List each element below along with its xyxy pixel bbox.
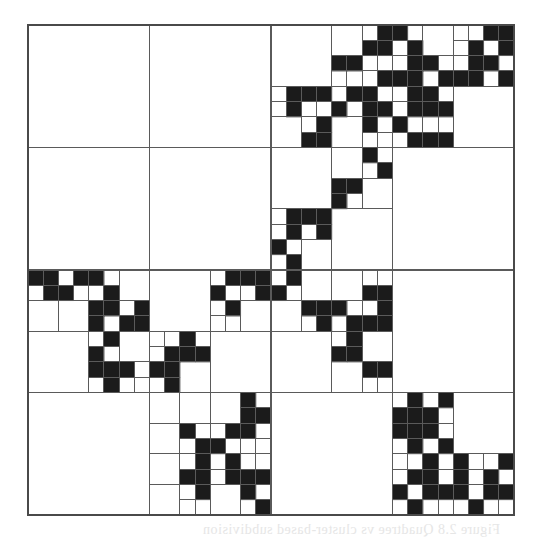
quadtree-node [347,71,362,86]
quadtree-node [256,423,271,438]
quadtree-node [241,500,256,515]
quadtree-node [210,469,225,484]
quadtree-figure [28,25,514,515]
quadtree-node [362,331,392,362]
black-cell [377,25,393,41]
black-cell [377,71,393,87]
black-cell [286,255,302,271]
quadtree-node [393,393,408,408]
quadtree-node [317,102,332,117]
quadtree-node [74,285,89,300]
quadtree-node [362,163,377,178]
quadtree-node [165,331,180,346]
quadtree-node [150,393,180,424]
bleed-through-caption: Figure 2.8 Quadtree vs cluster-based sub… [60,522,500,538]
black-cell [225,270,241,286]
quadtree-node [301,224,316,239]
quadtree-node [423,393,438,408]
black-cell [347,331,363,347]
quadtree-node [89,285,104,300]
black-cell [362,86,378,102]
quadtree-node [150,423,180,454]
black-cell [423,408,439,424]
black-cell [317,132,333,148]
quadtree-node [271,25,332,86]
black-cell [468,56,484,72]
black-cell [438,438,454,454]
quadtree-node [332,209,393,270]
quadtree-node [393,500,408,515]
quadtree-node [423,25,453,56]
quadtree-node [468,469,483,484]
quadtree-node [332,362,362,393]
quadtree-node [332,25,362,56]
quadtree-node [28,331,89,392]
quadtree-diagram [28,25,514,515]
quadtree-node [377,86,392,101]
quadtree-node [210,316,225,331]
black-cell [332,301,348,317]
black-cell [286,270,302,286]
quadtree-node [453,40,468,55]
black-cell [423,469,439,485]
quadtree-node [89,331,104,346]
black-cell [362,40,378,56]
black-cell [241,423,257,439]
quadtree-node [28,393,150,516]
black-cell [377,163,393,179]
quadtree-node [362,178,392,209]
quadtree-node [150,454,180,485]
quadtree-node [468,25,483,40]
quadtree-node [150,25,272,148]
black-cell [408,408,424,424]
black-cell [362,362,378,378]
quadtree-node [377,377,392,392]
black-cell [453,484,469,500]
black-cell [408,40,424,56]
black-cell [468,40,484,56]
quadtree-node [119,270,149,301]
black-cell [74,270,90,286]
black-cell [225,301,241,317]
quadtree-node [241,438,256,453]
black-cell [408,500,424,516]
black-cell [408,86,424,102]
quadtree-node [453,393,514,454]
quadtree-node [468,484,483,499]
black-cell [134,316,150,332]
black-cell [408,438,424,454]
quadtree-node [104,347,119,362]
black-cell [408,393,424,409]
black-cell [332,178,348,194]
quadtree-node [332,148,362,179]
quadtree-node [408,484,423,499]
quadtree-node [408,25,423,40]
black-cell [89,270,105,286]
quadtree-node [438,86,453,101]
quadtree-node [301,239,331,270]
quadtree-node [286,285,301,300]
quadtree-node [28,148,150,271]
black-cell [180,331,196,347]
quadtree-node [362,71,377,86]
quadtree-node [241,454,256,469]
quadtree-node [362,25,377,40]
quadtree-node [332,331,347,346]
black-cell [484,469,500,485]
quadtree-node [393,102,408,117]
black-cell [58,285,74,301]
quadtree-node [347,301,362,316]
quadtree-node [362,270,377,285]
quadtree-node [271,86,286,101]
quadtree-node [286,239,301,254]
quadtree-node [332,270,362,301]
black-cell [438,71,454,87]
quadtree-node [104,270,119,285]
black-cell [499,40,515,56]
black-cell [347,178,363,194]
black-cell [393,71,409,87]
quadtree-node [362,377,377,392]
black-cell [104,301,120,317]
quadtree-node [58,270,73,285]
quadtree-node [134,377,149,392]
